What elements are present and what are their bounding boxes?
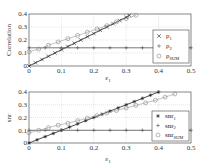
series-ρ1 [27,14,131,68]
y-tick-label: 0.3 [18,101,27,109]
y-axis-label: Correlation [5,24,13,56]
x-tick-label: 0 [27,67,31,75]
plus-marker-icon [189,128,193,132]
plus-marker-icon [141,46,145,50]
star-marker-icon [133,100,137,104]
x-tick-label: 0.2 [89,67,98,75]
x-marker-icon [73,41,77,45]
correlation-chart-panel: 00.10.20.30.4 00.10.20.30.40.5 Correlati… [0,0,206,82]
x-marker-icon [47,54,51,58]
plus-marker-icon [141,128,145,132]
x-tick-label: 0.4 [154,67,163,75]
y-tick-label: 0.1 [18,49,27,57]
x-tick-label: 0.2 [89,144,98,152]
x-tick-label: 0.1 [57,67,66,75]
x-marker-icon [34,61,38,65]
y-tick-label: 0.4 [18,88,27,96]
plus-marker-icon [124,128,128,132]
plus-marker-icon [76,128,80,132]
x-axis-ticks: 00.10.20.30.40.5 [27,67,196,75]
snr-chart-panel: 00.10.20.30.4 00.10.20.30.40.5 snr ε1 sn… [0,82,206,165]
x-tick-label: 0.1 [57,144,66,152]
legend: ρ1ρ2ρSUM [153,30,189,63]
star-marker-icon [149,93,153,97]
legend: snr1snr2snrSUM [152,111,189,141]
y-tick-label: 0.4 [18,10,27,18]
star-marker-icon [68,125,72,129]
y-axis-label: snr [5,113,13,122]
x-axis-label: ε1 [105,155,111,164]
y-tick-label: 0.3 [18,23,27,31]
plus-marker-icon [189,46,193,50]
x-marker-icon [86,35,90,39]
x-tick-label: 0.3 [122,67,131,75]
plus-marker-icon [27,46,31,50]
x-tick-label: 0.4 [154,144,163,152]
y-axis-ticks: 00.10.20.30.4 [18,88,27,147]
plus-marker-icon [92,128,96,132]
plus-marker-icon [60,128,64,132]
correlation-chart: 00.10.20.30.4 00.10.20.30.40.5 Correlati… [0,0,206,82]
plus-marker-icon [108,128,112,132]
y-tick-label: 0.1 [18,127,27,135]
x-axis-ticks: 00.10.20.30.40.5 [27,144,196,152]
star-marker-icon [43,135,47,139]
y-tick-label: 0.2 [18,114,27,122]
x-axis-label: ε1 [105,74,111,82]
plus-marker-icon [108,46,112,50]
y-axis-ticks: 00.10.20.30.4 [18,10,27,70]
plus-marker-icon [76,46,80,50]
y-tick-label: 0.2 [18,36,27,44]
x-tick-label: 0 [27,144,31,152]
star-marker-icon [52,132,56,136]
star-marker-icon [141,97,145,101]
plus-marker-icon [92,46,96,50]
snr-chart: 00.10.20.30.4 00.10.20.30.40.5 snr ε1 sn… [0,82,206,165]
x-tick-label: 0.3 [122,144,131,152]
x-marker-icon [40,58,44,62]
plus-marker-icon [124,46,128,50]
star-marker-icon [157,90,161,94]
star-marker-icon [35,138,39,142]
x-tick-label: 0.5 [187,67,196,75]
x-tick-label: 0.5 [187,144,196,152]
